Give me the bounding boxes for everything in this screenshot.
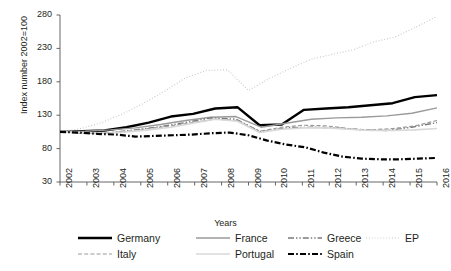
x-tick-label: 2012 (333, 168, 343, 188)
y-tick-label: 80 (22, 143, 52, 153)
series-line-ep (60, 16, 437, 132)
y-tick-label: 30 (22, 176, 52, 186)
legend-swatch-italy (78, 249, 112, 259)
legend-row: GermanyFranceGreeceEP (0, 232, 451, 248)
x-tick-label: 2011 (306, 169, 316, 188)
x-tick-label: 2007 (199, 168, 209, 188)
legend-item-ep[interactable]: EP (366, 232, 419, 244)
legend-item-portugal[interactable]: Portugal (196, 248, 274, 260)
legend-item-germany[interactable]: Germany (78, 232, 160, 244)
y-tick-label: 130 (22, 109, 52, 119)
plot-area (0, 0, 451, 271)
x-tick-label: 2013 (360, 168, 370, 188)
legend-label-portugal: Portugal (235, 248, 274, 260)
legend-item-greece[interactable]: Greece (288, 232, 361, 244)
legend-label-ep: EP (405, 232, 419, 244)
y-tick-label: 230 (22, 42, 52, 52)
legend-swatch-germany (78, 233, 112, 243)
x-tick-label: 2004 (118, 168, 128, 188)
legend-label-italy: Italy (117, 248, 136, 260)
x-tick-label: 2014 (387, 168, 397, 188)
legend-label-greece: Greece (327, 232, 361, 244)
x-tick-label: 2006 (172, 168, 182, 188)
series-line-spain (60, 132, 437, 159)
legend-swatch-spain (288, 249, 322, 259)
legend-swatch-ep (366, 233, 400, 243)
legend-label-spain: Spain (327, 248, 354, 260)
x-tick-label: 2010 (279, 168, 289, 188)
data-series-group (60, 16, 437, 159)
chart-figure: Index number 2002=100 3080130180230280 2… (0, 0, 451, 271)
y-tick-label: 280 (22, 9, 52, 19)
legend-item-italy[interactable]: Italy (78, 248, 136, 260)
x-axis-title: Years (0, 218, 451, 228)
x-tick-label: 2016 (441, 168, 451, 188)
legend-swatch-france (196, 233, 230, 243)
x-tick-label: 2009 (253, 168, 263, 188)
x-tick-label: 2015 (414, 168, 424, 188)
x-tick-label: 2003 (91, 168, 101, 188)
legend-row: ItalyPortugalSpain (0, 248, 451, 264)
legend-label-france: France (235, 232, 268, 244)
x-tick-label: 2008 (226, 168, 236, 188)
x-tick-label: 2002 (64, 168, 74, 188)
legend-item-spain[interactable]: Spain (288, 248, 354, 260)
y-tick-label: 180 (22, 76, 52, 86)
legend-swatch-portugal (196, 249, 230, 259)
x-tick-label: 2005 (145, 168, 155, 188)
axes (57, 15, 438, 186)
chart-legend: GermanyFranceGreeceEPItalyPortugalSpain (0, 232, 451, 264)
legend-swatch-greece (288, 233, 322, 243)
legend-label-germany: Germany (117, 232, 160, 244)
legend-item-france[interactable]: France (196, 232, 268, 244)
